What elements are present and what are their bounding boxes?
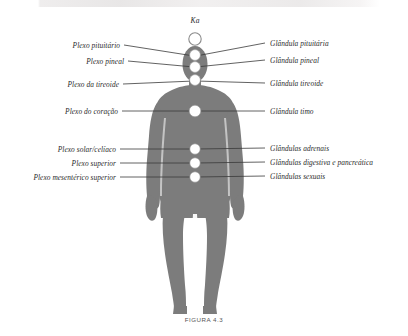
label-glandulas-adrenais: Glândulas adrenais bbox=[270, 144, 329, 153]
node-solar bbox=[190, 144, 200, 154]
crown-label-ka: Ka bbox=[191, 16, 200, 25]
label-glandula-tireoide: Glândula tireoide bbox=[270, 79, 323, 88]
label-plexo-pituitario: Plexo pituitário bbox=[73, 41, 120, 50]
label-glandulas-digestiva-pancreatica: Glândulas digestiva e pancreática bbox=[270, 158, 373, 167]
figure-page: Ka Plexo pituitário Plexo pineal Plexo d… bbox=[0, 0, 408, 336]
energy-center-nodes bbox=[189, 33, 201, 182]
node-thyroid bbox=[190, 75, 201, 86]
label-plexo-da-tireoide: Plexo da tireoide bbox=[68, 80, 119, 89]
leader-line-thyroid-right bbox=[196, 81, 265, 83]
label-plexo-pineal: Plexo pineal bbox=[86, 57, 124, 66]
label-glandula-timo: Glândula timo bbox=[270, 107, 314, 116]
figure-caption: FIGURA 4.3 bbox=[0, 316, 408, 323]
label-glandulas-sexuais: Glândulas sexuais bbox=[270, 172, 325, 181]
node-mesenteric bbox=[190, 172, 200, 182]
node-pituitary bbox=[190, 50, 201, 61]
leader-line-pituitary-left bbox=[124, 45, 194, 56]
label-plexo-solar-celiaco: Plexo solar/celíaco bbox=[58, 145, 116, 154]
node-pineal bbox=[190, 62, 201, 73]
label-plexo-do-coracao: Plexo do coração bbox=[65, 107, 118, 116]
label-plexo-superior: Plexo superior bbox=[72, 159, 116, 168]
anatomy-figure-diagram bbox=[0, 0, 408, 336]
leader-line-thyroid-left bbox=[123, 81, 194, 84]
node-superior bbox=[190, 158, 200, 168]
leader-line-pituitary-right bbox=[196, 43, 265, 56]
label-glandula-pituitaria: Glândula pituitária bbox=[270, 39, 329, 48]
label-plexo-mesenterico-superior: Plexo mesentérico superior bbox=[33, 173, 116, 182]
node-heart bbox=[189, 105, 201, 117]
label-glandula-pineal: Glândula pineal bbox=[270, 56, 319, 65]
node-ka bbox=[189, 33, 201, 45]
